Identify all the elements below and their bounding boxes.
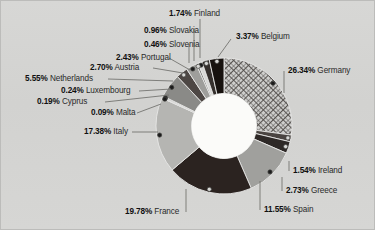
label-germany-name: Germany [317, 66, 350, 75]
label-austria: 2.70% Austria [90, 64, 139, 72]
label-finland-pct: 1.74% [169, 9, 192, 18]
donut-chart: 1.74% Finland 3.37% Belgium 0.96% Slovak… [1, 1, 374, 229]
leader-dot-finland [204, 61, 208, 65]
leader-line-portugal [169, 58, 190, 70]
label-spain: 11.55% Spain [264, 206, 313, 214]
label-germany: 26.34% Germany [288, 67, 350, 75]
label-malta-name: Malta [116, 108, 136, 117]
label-portugal-name: Portugal [141, 53, 171, 62]
leader-dot-belgium [215, 59, 219, 63]
label-austria-name: Austria [114, 63, 139, 72]
label-cyprus: 0.19% Cyprus [37, 98, 87, 106]
leader-dot-slovenia [196, 64, 200, 68]
label-austria-pct: 2.70% [90, 63, 113, 72]
leader-dot-france [207, 187, 211, 191]
label-greece-name: Greece [311, 186, 337, 195]
label-france: 19.78% France [125, 208, 179, 216]
label-italy: 17.38% Italy [84, 128, 128, 136]
label-netherlands-pct: 5.55% [25, 74, 48, 83]
label-luxembourg-name: Luxembourg [86, 86, 131, 95]
label-luxembourg-pct: 0.24% [61, 86, 84, 95]
label-ireland-name: Ireland [318, 166, 342, 175]
label-netherlands-name: Netherlands [50, 74, 93, 83]
leader-dot-austria [182, 73, 186, 77]
label-ireland: 1.54% Ireland [293, 167, 342, 175]
label-france-pct: 19.78% [125, 207, 152, 216]
leader-line-netherlands [108, 79, 173, 81]
leader-dot-greece [284, 145, 288, 149]
label-spain-pct: 11.55% [264, 205, 291, 214]
label-france-name: France [154, 207, 179, 216]
label-slovenia: 0.46% Slovenia [144, 41, 200, 49]
label-luxembourg: 0.24% Luxembourg [61, 87, 130, 95]
label-finland-name: Finland [194, 9, 220, 18]
label-greece-pct: 2.73% [286, 186, 309, 195]
label-slovenia-pct: 0.46% [144, 40, 167, 49]
label-ireland-pct: 1.54% [293, 166, 316, 175]
leader-dot-italy [158, 133, 162, 137]
donut-hole [192, 94, 257, 159]
label-malta-pct: 0.09% [91, 108, 114, 117]
leader-line-cyprus [105, 95, 169, 102]
donut-svg [1, 1, 375, 230]
label-malta: 0.09% Malta [91, 109, 135, 117]
leader-dot-spain [268, 170, 272, 174]
label-germany-pct: 26.34% [288, 66, 315, 75]
label-slovakia-pct: 0.96% [144, 26, 167, 35]
leader-dot-portugal [191, 67, 195, 71]
label-belgium-name: Belgium [261, 32, 290, 41]
leader-line-belgium [218, 39, 231, 57]
label-spain-name: Spain [293, 205, 313, 214]
label-slovakia: 0.96% Slovakia [144, 27, 199, 35]
leader-line-austria [153, 68, 183, 73]
leader-dot-germany [271, 81, 275, 85]
label-italy-name: Italy [113, 127, 128, 136]
label-cyprus-pct: 0.19% [37, 97, 60, 106]
label-belgium-pct: 3.37% [236, 32, 259, 41]
leader-dot-malta [163, 97, 167, 101]
label-finland: 1.74% Finland [169, 10, 220, 18]
chart-frame: 1.74% Finland 3.37% Belgium 0.96% Slovak… [0, 0, 375, 230]
leader-dot-ireland [286, 136, 290, 140]
label-portugal-pct: 2.43% [116, 53, 139, 62]
label-slovenia-name: Slovenia [169, 40, 200, 49]
label-netherlands: 5.55% Netherlands [25, 75, 93, 83]
label-slovakia-name: Slovakia [169, 26, 199, 35]
label-greece: 2.73% Greece [286, 187, 337, 195]
label-cyprus-name: Cyprus [62, 97, 87, 106]
label-italy-pct: 17.38% [84, 127, 111, 136]
label-belgium: 3.37% Belgium [236, 33, 290, 41]
label-portugal: 2.43% Portugal [116, 54, 171, 62]
